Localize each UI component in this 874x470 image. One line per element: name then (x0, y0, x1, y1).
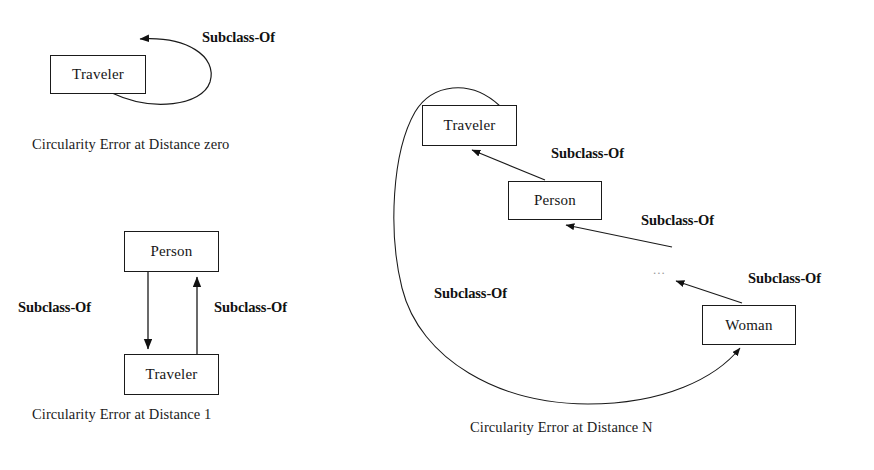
edge-label-subclass-of-left-distance-1: Subclass-Of (18, 299, 91, 316)
node-traveler-distance-n[interactable]: Traveler (422, 105, 517, 146)
node-traveler-distance-1[interactable]: Traveler (124, 354, 219, 395)
caption-distance-zero: Circularity Error at Distance zero (32, 136, 229, 153)
edge-label-subclass-of-distance-zero: Subclass-Of (202, 29, 275, 46)
node-label: Woman (725, 317, 772, 334)
edge-label-subclass-of-right-distance-1: Subclass-Of (214, 299, 287, 316)
edge-label-subclass-of-long-curve-distance-n: Subclass-Of (434, 285, 507, 302)
node-woman-distance-n[interactable]: Woman (702, 305, 796, 345)
caption-distance-1: Circularity Error at Distance 1 (32, 406, 211, 423)
edge-label-subclass-of-woman-chain-distance-n: Subclass-Of (748, 270, 821, 287)
node-label: Traveler (444, 117, 496, 134)
node-traveler-distance-zero[interactable]: Traveler (50, 55, 146, 94)
diagram-canvas: Traveler Subclass-Of Circularity Error a… (0, 0, 874, 470)
node-label: Person (534, 192, 576, 209)
node-label: Traveler (146, 366, 198, 383)
edge-label-subclass-of-person-traveler-distance-n: Subclass-Of (551, 145, 624, 162)
node-label: Traveler (72, 66, 124, 83)
chain-ellipsis-distance-n: ... (653, 262, 666, 278)
caption-distance-n: Circularity Error at Distance N (470, 419, 653, 436)
node-person-distance-n[interactable]: Person (508, 181, 602, 220)
edge-label-subclass-of-chain-person-distance-n: Subclass-Of (641, 212, 714, 229)
edge-woman-to-chain-dn (676, 281, 742, 303)
node-person-distance-1[interactable]: Person (124, 231, 219, 272)
edge-person-to-traveler-dn (472, 150, 545, 180)
node-label: Person (150, 243, 192, 260)
